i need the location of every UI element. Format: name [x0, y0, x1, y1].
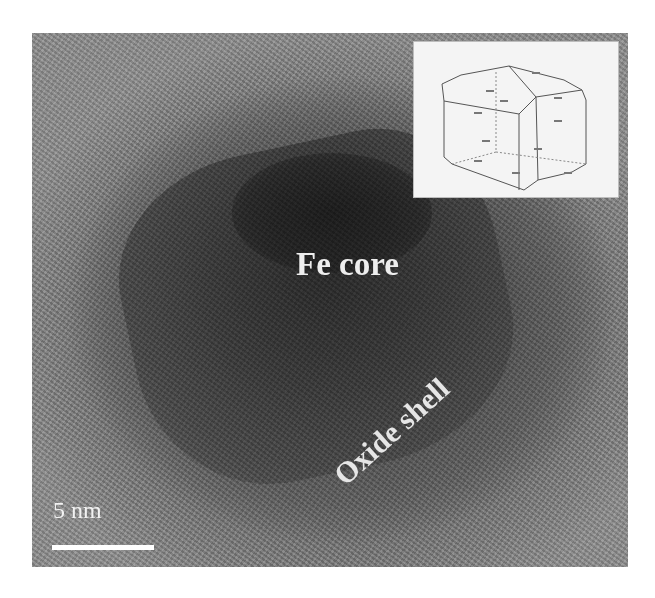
scale-bar-label: 5 nm: [53, 497, 102, 524]
crystal-shape-inset: [413, 41, 619, 198]
tem-micrograph: Fe core Oxide shell 5 nm: [32, 33, 628, 567]
fe-core-label: Fe core: [296, 246, 399, 283]
crystal-shape-diagram: [414, 42, 618, 197]
scale-bar: [52, 545, 154, 550]
